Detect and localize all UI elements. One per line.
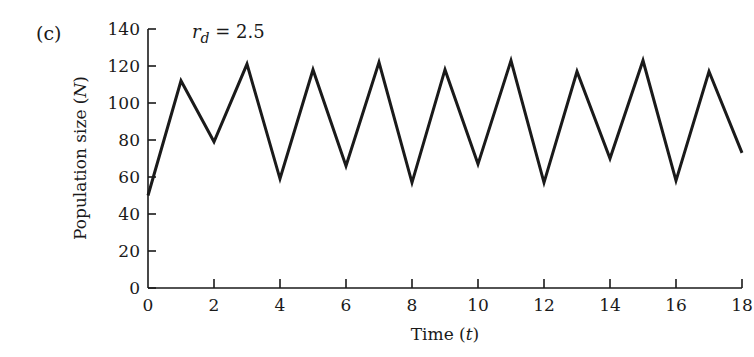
rd-annotation: rd = 2.5 [192, 21, 265, 46]
x-tick-label: 4 [275, 295, 286, 315]
y-tick-label: 140 [108, 19, 140, 39]
population-line [148, 61, 742, 196]
line-chart: 020406080100120140024681012141618 rd = 2… [0, 0, 754, 357]
x-tick-label: 14 [599, 295, 621, 315]
y-tick-label: 120 [108, 56, 140, 76]
x-tick-label: 10 [467, 295, 489, 315]
y-axis-title: Population size (N) [70, 76, 90, 240]
y-tick-label: 80 [118, 130, 140, 150]
x-tick-label: 16 [665, 295, 687, 315]
y-tick-label: 60 [118, 167, 140, 187]
y-tick-label: 20 [118, 241, 140, 261]
x-tick-label: 18 [731, 295, 753, 315]
tick-labels: 020406080100120140024681012141618 [108, 19, 753, 315]
x-tick-label: 6 [341, 295, 352, 315]
x-tick-label: 2 [209, 295, 220, 315]
x-tick-label: 0 [143, 295, 154, 315]
y-tick-label: 0 [129, 278, 140, 298]
y-tick-label: 40 [118, 204, 140, 224]
x-axis-title: Time (t) [411, 324, 479, 344]
x-tick-label: 12 [533, 295, 555, 315]
x-tick-label: 8 [407, 295, 418, 315]
y-tick-label: 100 [108, 93, 140, 113]
